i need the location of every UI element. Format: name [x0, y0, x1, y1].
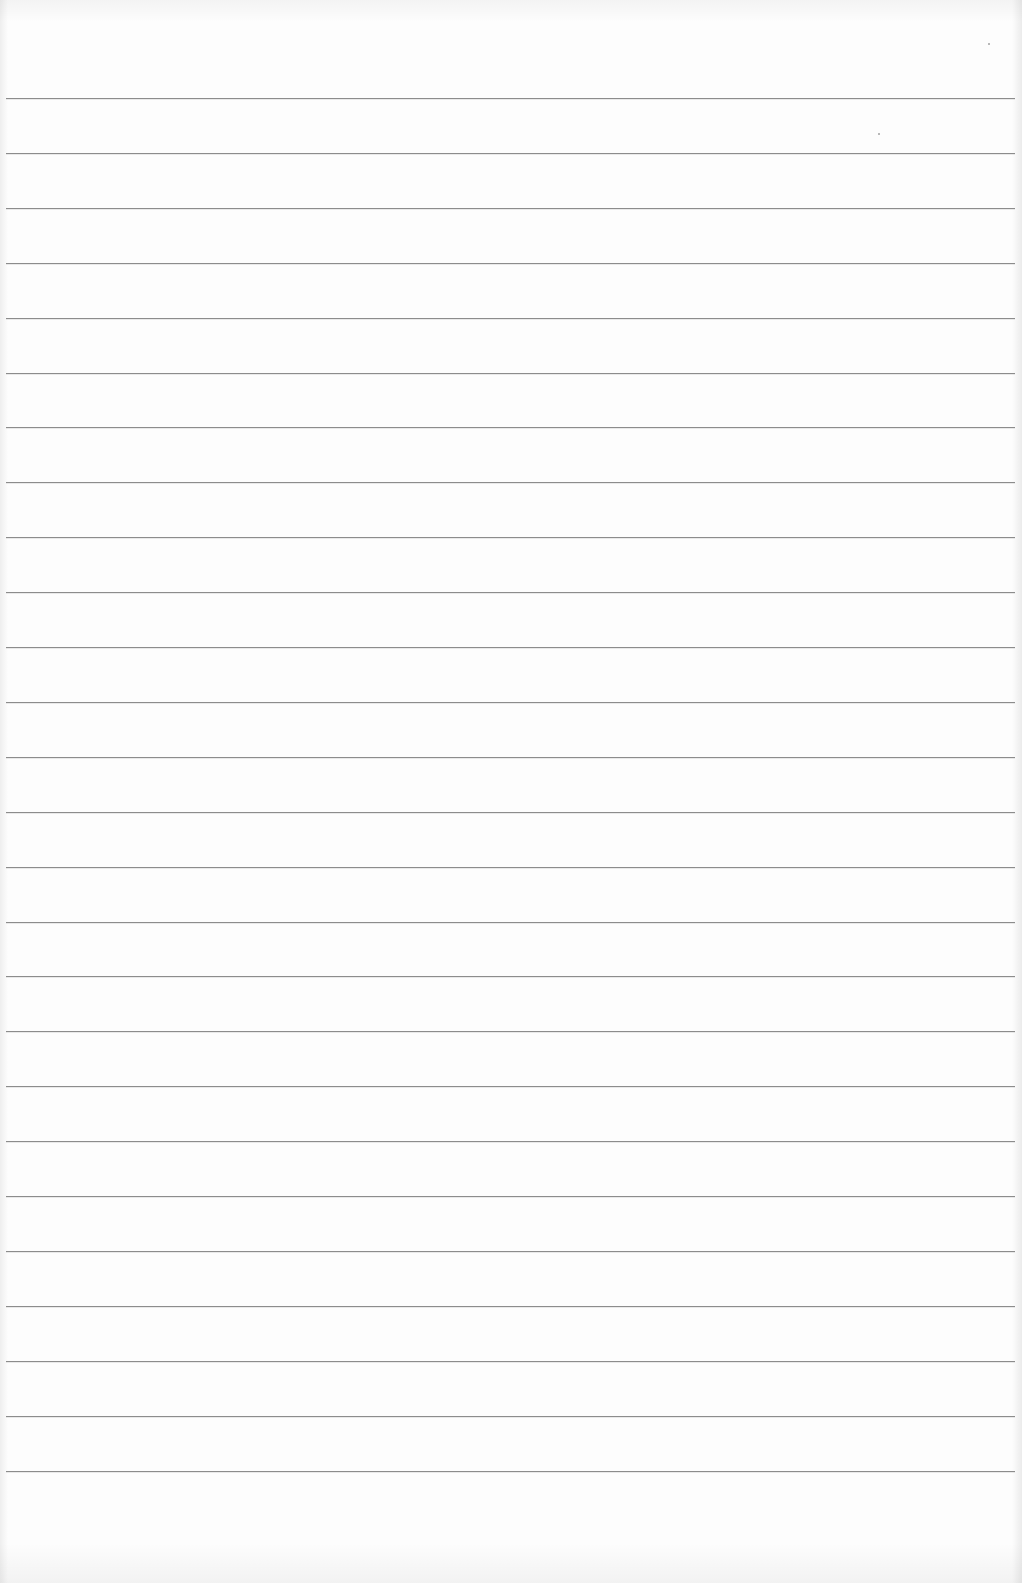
ruled-line — [6, 98, 1015, 99]
ruled-line — [6, 153, 1015, 154]
ruled-paper-page — [0, 0, 1022, 1583]
ruled-line — [6, 1251, 1015, 1252]
ruled-line — [6, 1361, 1015, 1362]
ruled-line — [6, 208, 1015, 209]
ruled-line — [6, 1086, 1015, 1087]
ruled-line — [6, 318, 1015, 319]
ruled-line — [6, 1306, 1015, 1307]
ruled-line — [6, 1416, 1015, 1417]
paper-speck — [988, 43, 990, 45]
ruled-line — [6, 922, 1015, 923]
ruled-line — [6, 1196, 1015, 1197]
ruled-line — [6, 537, 1015, 538]
ruled-line — [6, 427, 1015, 428]
ruled-line — [6, 812, 1015, 813]
ruled-line — [6, 976, 1015, 977]
ruled-line — [6, 263, 1015, 264]
ruled-line — [6, 1471, 1015, 1472]
ruled-line — [6, 647, 1015, 648]
ruled-line — [6, 373, 1015, 374]
ruled-line — [6, 757, 1015, 758]
ruled-line — [6, 867, 1015, 868]
paper-speck — [878, 133, 880, 135]
ruled-line — [6, 1031, 1015, 1032]
ruled-line — [6, 702, 1015, 703]
ruled-line — [6, 592, 1015, 593]
ruled-line — [6, 1141, 1015, 1142]
ruled-line — [6, 482, 1015, 483]
